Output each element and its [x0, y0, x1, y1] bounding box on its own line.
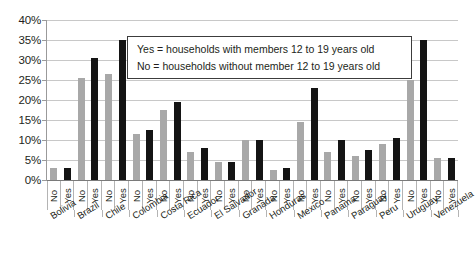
bar-costa-rica-no: [160, 110, 167, 180]
bar-brazil-yes: [91, 58, 98, 180]
bar-brazil-no: [78, 78, 85, 180]
bar-ecuador-yes: [201, 148, 208, 180]
y-tick-mark: [42, 60, 47, 61]
category-cell-label: No: [130, 189, 141, 201]
y-tick-label: 25%: [19, 74, 41, 86]
y-tick-label: 40%: [19, 14, 41, 26]
y-tick-label: 20%: [19, 94, 41, 106]
y-tick-label: 10%: [19, 134, 41, 146]
bar-uruguay-no: [407, 80, 414, 180]
y-tick-mark: [42, 20, 47, 21]
bar-panama-no: [324, 152, 331, 180]
y-tick-mark: [42, 180, 47, 181]
y-tick-label: 35%: [19, 34, 41, 46]
y-tick-label: 5%: [25, 154, 41, 166]
country-label-band: BoliviaBrazilChileColombiaCosta RicaEcua…: [47, 210, 458, 255]
bar-venezuela-no: [434, 158, 441, 180]
bar-colombia-yes: [146, 130, 153, 180]
bar-panama-yes: [338, 140, 345, 180]
category-cell-label: No: [75, 189, 86, 201]
bar-paraguay-no: [352, 156, 359, 180]
bar-honduras-yes: [283, 168, 290, 180]
bar-costa-rica-yes: [174, 102, 181, 180]
bar-venezuela-yes: [448, 158, 455, 180]
y-tick-mark: [42, 100, 47, 101]
category-cell-label: No: [48, 189, 59, 201]
bar-mexico-no: [297, 122, 304, 180]
y-tick-label: 0%: [25, 174, 41, 186]
y-tick-mark: [42, 80, 47, 81]
bar-honduras-no: [270, 170, 277, 180]
y-tick-mark: [42, 40, 47, 41]
legend-line-yes: Yes = households with members 12 to 19 y…: [137, 41, 403, 58]
bar-bolivia-yes: [64, 168, 71, 180]
bar-peru-no: [379, 144, 386, 180]
bar-ecuador-no: [187, 152, 194, 180]
bar-uruguay-yes: [420, 40, 427, 180]
y-axis: 0%5%10%15%20%25%30%35%40%: [0, 0, 44, 255]
y-tick-label: 15%: [19, 114, 41, 126]
bar-paraguay-yes: [365, 150, 372, 180]
bar-chile-no: [105, 74, 112, 180]
y-tick-mark: [42, 120, 47, 121]
y-tick-mark: [42, 140, 47, 141]
y-tick-label: 30%: [19, 54, 41, 66]
legend-line-no: No = households without member 12 to 19 …: [137, 58, 403, 75]
category-cell-label: No: [103, 189, 114, 201]
bar-mexico-yes: [311, 88, 318, 180]
bar-bolivia-no: [50, 168, 57, 180]
country-tick: [458, 210, 459, 217]
legend-box: Yes = households with members 12 to 19 y…: [127, 36, 412, 79]
bar-el-salvador-no: [215, 162, 222, 180]
bar-el-salvador-yes: [228, 162, 235, 180]
bar-peru-yes: [393, 138, 400, 180]
bar-colombia-no: [133, 134, 140, 180]
bar-chile-yes: [119, 40, 126, 180]
y-tick-mark: [42, 160, 47, 161]
category-cell-label: No: [404, 189, 415, 201]
bar-granada-yes: [256, 140, 263, 180]
bar-granada-no: [242, 140, 249, 180]
